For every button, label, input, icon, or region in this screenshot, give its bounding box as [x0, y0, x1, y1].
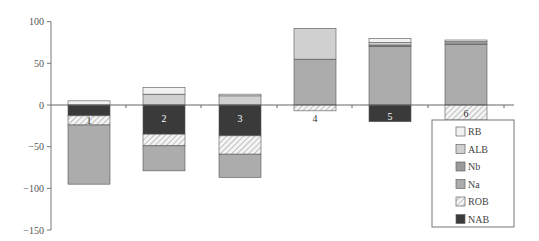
legend-label: NAB: [468, 214, 489, 225]
legend-swatch: [456, 180, 465, 189]
segment-rb: [369, 38, 411, 42]
legend: RBALBNbNaROBNAB: [432, 120, 514, 227]
segment-rb: [219, 94, 261, 96]
category-label: 6: [464, 108, 469, 119]
y-tick-label: 100: [29, 16, 44, 27]
category-label: 5: [388, 111, 393, 122]
segment-rob: [143, 134, 185, 146]
legend-item-nab: NAB: [456, 214, 489, 225]
legend-swatch: [456, 215, 465, 224]
bar-1: [68, 101, 110, 184]
segment-alb: [219, 96, 261, 105]
legend-swatch: [456, 197, 465, 206]
legend-label: ALB: [468, 144, 488, 155]
segment-rb: [143, 88, 185, 95]
legend-label: Nb: [468, 161, 480, 172]
segment-rb: [68, 101, 110, 105]
y-tick-label: −150: [23, 225, 44, 236]
category-label: 1: [87, 115, 92, 126]
segment-na: [445, 44, 487, 105]
legend-label: RB: [468, 126, 482, 137]
segment-na: [369, 47, 411, 105]
x-axis: [51, 105, 514, 108]
legend-item-rb: RB: [456, 126, 482, 137]
legend-item-rob: ROB: [456, 196, 489, 207]
category-label: 3: [238, 113, 243, 124]
legend-item-alb: ALB: [456, 144, 488, 155]
segment-na: [219, 154, 261, 177]
legend-swatch: [456, 162, 465, 171]
category-label: 4: [313, 113, 318, 124]
y-axis: 100500−50−100−150: [23, 16, 51, 235]
legend-label: Na: [468, 179, 480, 190]
segment-nb: [445, 42, 487, 45]
segment-rob: [219, 136, 261, 154]
y-tick-label: 50: [34, 58, 44, 69]
y-tick-label: −50: [28, 141, 44, 152]
bar-4: [294, 28, 336, 111]
segment-na: [143, 146, 185, 171]
y-tick-label: −100: [23, 183, 44, 194]
bar-3: [219, 94, 261, 177]
segment-alb: [369, 43, 411, 46]
legend-item-nb: Nb: [456, 161, 480, 172]
segment-rb: [445, 40, 487, 42]
segment-alb: [143, 94, 185, 105]
category-label: 2: [162, 113, 167, 124]
segment-na: [68, 125, 110, 184]
y-tick-label: 0: [39, 100, 44, 111]
stacked-bar-chart: 100500−50−100−150 123456 RBALBNbNaROBNAB: [0, 0, 539, 241]
segment-rob: [294, 105, 336, 111]
segment-alb: [294, 28, 336, 59]
bar-5: [369, 38, 411, 121]
legend-swatch: [456, 127, 465, 136]
legend-swatch: [456, 145, 465, 154]
legend-item-na: Na: [456, 179, 480, 190]
bar-2: [143, 88, 185, 171]
segment-na: [294, 59, 336, 105]
legend-label: ROB: [468, 196, 489, 207]
